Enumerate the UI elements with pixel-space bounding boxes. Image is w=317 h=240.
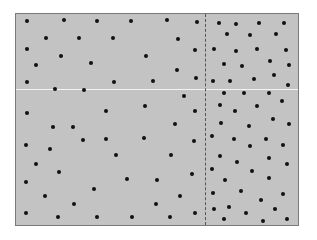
dot	[57, 170, 61, 174]
dot	[257, 21, 261, 25]
dot	[192, 139, 196, 143]
dot	[259, 198, 263, 202]
dot	[24, 211, 28, 215]
dot	[24, 180, 28, 184]
dot	[282, 21, 286, 25]
dot	[130, 215, 134, 219]
dot	[250, 169, 254, 173]
dot	[233, 109, 237, 113]
dot	[151, 79, 155, 83]
dot	[287, 122, 291, 126]
dot	[71, 125, 75, 129]
dot	[154, 202, 158, 206]
dot	[273, 207, 277, 211]
dot	[24, 143, 28, 147]
dot	[267, 176, 271, 180]
dot	[77, 36, 81, 40]
dot	[286, 83, 290, 87]
dot	[234, 22, 238, 26]
dot	[223, 178, 227, 182]
dot	[82, 88, 86, 92]
dot	[244, 211, 248, 215]
dot	[182, 94, 186, 98]
dot	[284, 48, 288, 52]
dot	[247, 124, 251, 128]
dot	[81, 138, 85, 142]
dot	[95, 215, 99, 219]
dot	[59, 54, 63, 58]
dot	[104, 137, 108, 141]
dot-field-panel	[15, 13, 299, 226]
dot	[235, 160, 239, 164]
dot	[25, 111, 29, 115]
dot	[72, 202, 76, 206]
dot	[178, 194, 182, 198]
dot	[248, 33, 252, 37]
dot	[165, 18, 169, 22]
dot	[34, 63, 38, 67]
dot	[175, 68, 179, 72]
dot	[190, 172, 194, 176]
dot	[272, 73, 276, 77]
dot	[252, 77, 256, 81]
dot	[92, 187, 96, 191]
dot	[25, 47, 29, 51]
dot	[274, 32, 278, 36]
dot	[217, 21, 221, 25]
dot	[193, 109, 197, 113]
dot	[44, 36, 48, 40]
dot	[255, 104, 259, 108]
dot	[267, 156, 271, 160]
dot	[56, 215, 60, 219]
dot	[89, 61, 93, 65]
dot	[144, 54, 148, 58]
dot	[211, 191, 215, 195]
dot	[51, 125, 55, 129]
dot	[194, 76, 198, 80]
dot	[211, 79, 215, 83]
dot	[267, 91, 271, 95]
dot	[280, 99, 284, 103]
dot	[48, 147, 52, 151]
dot	[25, 19, 29, 23]
dot	[248, 144, 252, 148]
dot	[125, 177, 129, 181]
dot	[240, 64, 244, 68]
dot	[53, 87, 57, 91]
dot	[212, 207, 216, 211]
dot	[285, 217, 289, 221]
dot	[104, 109, 108, 113]
dot	[142, 136, 146, 140]
dot	[212, 47, 216, 51]
dot	[261, 219, 265, 223]
dot	[218, 154, 222, 158]
dot	[111, 36, 115, 40]
dot	[271, 117, 275, 121]
dot	[225, 32, 229, 36]
dot	[228, 79, 232, 83]
dot	[239, 189, 243, 193]
dot	[193, 48, 197, 52]
dot	[34, 162, 38, 166]
dot	[234, 49, 238, 53]
vertical-dashed-divider	[205, 14, 206, 225]
dot	[176, 37, 180, 41]
dot	[193, 211, 197, 215]
dot	[168, 215, 172, 219]
dot	[281, 143, 285, 147]
dot	[222, 91, 226, 95]
dot	[227, 205, 231, 209]
dot	[268, 59, 272, 63]
dot	[114, 153, 118, 157]
dot	[264, 137, 268, 141]
dot	[285, 162, 289, 166]
dot	[222, 62, 226, 66]
dot	[287, 63, 291, 67]
dot	[143, 104, 147, 108]
dot	[218, 103, 222, 107]
horizontal-line	[16, 89, 298, 90]
dot	[232, 137, 236, 141]
dot	[112, 80, 116, 84]
dot	[219, 121, 223, 125]
dot	[155, 178, 159, 182]
